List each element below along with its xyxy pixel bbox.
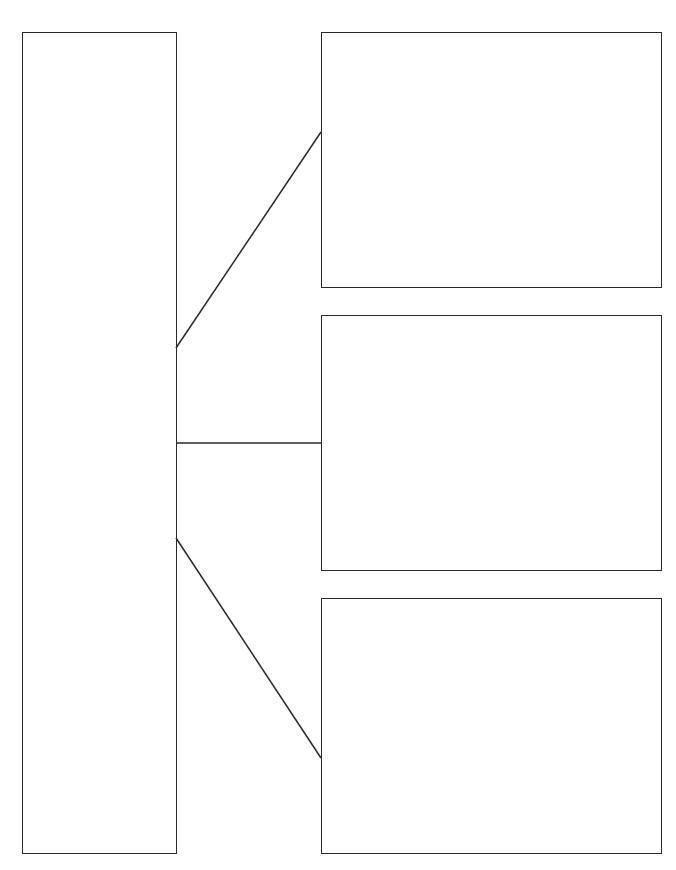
connector-line-1 <box>176 132 321 348</box>
detail-text-2 <box>330 324 653 562</box>
detail-text-1 <box>330 41 653 279</box>
detail-box-1 <box>321 32 662 288</box>
main-idea-text <box>31 41 168 845</box>
main-idea-box <box>22 32 177 854</box>
detail-text-3 <box>330 607 653 845</box>
connector-line-3 <box>176 538 321 758</box>
detail-box-3 <box>321 598 662 854</box>
detail-box-2 <box>321 315 662 571</box>
